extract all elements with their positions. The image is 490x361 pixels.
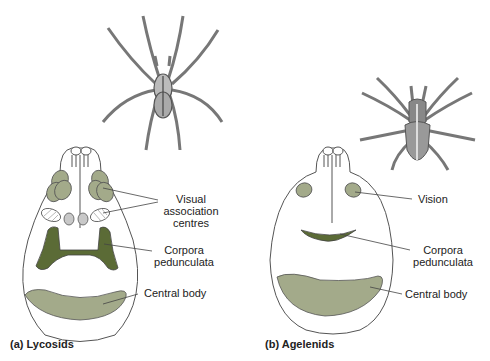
label-line: Visual (156, 193, 226, 205)
agelenid-brain (270, 147, 393, 334)
label-visual-association-centres: Visual association centres (156, 193, 226, 229)
caption-lycosids: (a) Lycosids (10, 338, 74, 350)
label-line: pedunculata (405, 256, 481, 268)
label-central-body-a: Central body (144, 287, 234, 299)
label-corpora-pedunculata-a: Corpora pedunculata (146, 244, 222, 268)
label-line: centres (156, 217, 226, 229)
agelenid-spider-illustration (360, 78, 475, 170)
diagram-canvas (0, 0, 490, 361)
caption-agelenids: (b) Agelenids (265, 338, 334, 350)
lycosid-brain (23, 147, 138, 342)
label-line: Corpora (405, 244, 481, 256)
label-line: pedunculata (146, 256, 222, 268)
label-central-body-b: Central body (405, 288, 490, 300)
lycosid-spider-illustration (103, 16, 222, 150)
label-corpora-pedunculata-b: Corpora pedunculata (405, 244, 481, 268)
label-line: association (156, 205, 226, 217)
label-line: Corpora (146, 244, 222, 256)
label-vision: Vision (418, 193, 448, 205)
